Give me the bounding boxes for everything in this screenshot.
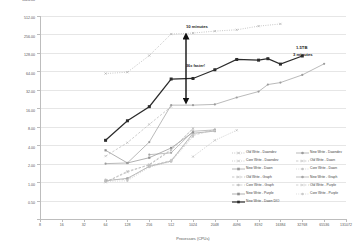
y-axis-tick-label: 0.50 xyxy=(28,201,35,205)
x-axis-tick-label: 128 xyxy=(124,223,130,227)
y-axis-tick-label: 32.00 xyxy=(26,90,35,94)
x-axis-tick xyxy=(127,219,128,222)
legend-item[interactable]: Old Write - Dawndev xyxy=(231,149,295,157)
annotation-size: 1.5TB xyxy=(296,45,307,50)
legend-item[interactable]: New Write - Dawndev xyxy=(295,149,359,157)
legend-column-right: New Write - DawndevOld Write - DawnCore … xyxy=(295,149,359,198)
legend-swatch xyxy=(295,149,310,157)
y-axis-tick xyxy=(37,164,40,165)
gridline xyxy=(40,34,346,35)
gridline xyxy=(40,127,346,128)
x-axis-tick-label: 8 xyxy=(39,223,41,227)
y-axis-tick xyxy=(37,16,40,17)
legend-label: New Write - Dawndev xyxy=(310,151,342,155)
legend-swatch xyxy=(231,157,246,165)
y-axis-tick xyxy=(37,127,40,128)
legend-swatch xyxy=(231,181,246,189)
legend-item[interactable]: Core Write - Purple xyxy=(295,189,359,197)
x-axis-tick-label: 2048 xyxy=(211,223,219,227)
y-axis-tick-label: 1.00 xyxy=(28,183,35,187)
x-axis-tick xyxy=(149,219,150,222)
y-axis-line xyxy=(40,16,41,219)
x-axis-tick-label: 16384 xyxy=(275,223,285,227)
x-axis-tick xyxy=(106,219,107,222)
x-axis-tick-label: 32768 xyxy=(297,223,307,227)
x-axis-tick xyxy=(346,219,347,222)
legend-label: Core Write - Graph xyxy=(246,184,274,188)
legend-item[interactable]: Core Write - Graph xyxy=(231,181,295,189)
legend-item[interactable]: New Write - Graph xyxy=(295,173,359,181)
y-axis-tick-label: 64.00 xyxy=(26,72,35,76)
legend-swatch xyxy=(231,173,246,181)
legend-item[interactable]: New Write - Dawn xyxy=(231,165,295,173)
legend-label: New Write - Dawn xyxy=(246,167,273,171)
x-axis-tick-label: 64 xyxy=(104,223,108,227)
x-axis-tick xyxy=(62,219,63,222)
y-axis-tick xyxy=(37,145,40,146)
legend-label: Core Write - Dawn xyxy=(310,167,337,171)
legend-swatch xyxy=(295,181,310,189)
legend-swatch xyxy=(295,190,310,198)
y-axis-tick xyxy=(37,90,40,91)
x-axis-tick-label: 65536 xyxy=(319,223,329,227)
y-axis-tick-label: 4.00 xyxy=(28,146,35,150)
x-axis-tick xyxy=(40,219,41,222)
y-axis-tick xyxy=(37,108,40,109)
y-axis-tick xyxy=(37,201,40,202)
x-axis-title: Processors (CPUs) xyxy=(176,236,209,241)
legend-item[interactable]: New Write - Purple xyxy=(231,189,295,197)
annotation-speedup: 36x faster! xyxy=(186,64,205,68)
x-axis-tick xyxy=(171,219,172,222)
gridline xyxy=(40,90,346,91)
legend-label: New Write - Graph xyxy=(310,176,337,180)
legend-item[interactable]: Core Write - Dawn xyxy=(295,165,359,173)
x-axis-tick xyxy=(324,219,325,222)
legend-label: Core Write - Purple xyxy=(310,192,338,196)
legend-swatch xyxy=(295,157,310,165)
x-axis-tick xyxy=(259,219,260,222)
legend-item[interactable]: Core Write - Dawndev xyxy=(231,157,295,165)
annotation-three-minutes: 3 minutes xyxy=(293,52,313,57)
legend-label: Core Write - Dawndev xyxy=(246,159,278,163)
x-axis-tick xyxy=(84,219,85,222)
gridline xyxy=(40,108,346,109)
x-axis-tick-label: 8192 xyxy=(255,223,263,227)
legend-item[interactable]: Old Write - Dawn xyxy=(295,157,359,165)
x-axis-tick xyxy=(237,219,238,222)
y-axis-tick xyxy=(37,71,40,72)
x-axis-tick-label: 1024 xyxy=(189,223,197,227)
legend-column-left: Old Write - DawndevCore Write - DawndevN… xyxy=(231,149,295,206)
x-axis-tick-label: 131072 xyxy=(340,223,352,227)
legend-label: New Write - Dawn DIO xyxy=(246,200,279,204)
y-axis-tick-label: 8.00 xyxy=(28,127,35,131)
legend-item[interactable]: Old Write - Graph xyxy=(231,173,295,181)
legend-label: Old Write - Dawn xyxy=(310,159,335,163)
legend-label: Old Write - Dawndev xyxy=(246,151,276,155)
gridline xyxy=(40,71,346,72)
y-axis-tick-label: 2.00 xyxy=(28,164,35,168)
legend-swatch xyxy=(231,165,246,173)
y-axis-tick-label: 128.00 xyxy=(24,53,35,57)
legend-swatch xyxy=(231,190,246,198)
annotation-ten-minutes: 10 minutes xyxy=(186,24,208,29)
x-axis-tick-label: 32 xyxy=(82,223,86,227)
y-axis-tick-label: 512.00 xyxy=(24,16,35,20)
y-axis-tick-labels: 0.501.002.004.008.0016.0032.0064.00128.0… xyxy=(0,0,35,203)
legend-swatch xyxy=(231,149,246,157)
legend-item[interactable]: Old Write - Purple xyxy=(295,181,359,189)
y-axis-tick xyxy=(37,182,40,183)
x-axis-tick xyxy=(193,219,194,222)
legend-swatch xyxy=(295,173,310,181)
legend-item[interactable]: New Write - Dawn DIO xyxy=(231,198,295,206)
x-axis-tick-label: 4096 xyxy=(233,223,241,227)
legend: Old Write - DawndevCore Write - DawndevN… xyxy=(231,149,359,215)
gridline xyxy=(40,145,346,146)
chart-container: 0.501.002.004.008.0016.0032.0064.00128.0… xyxy=(0,0,360,246)
y-axis-tick xyxy=(37,53,40,54)
x-axis-tick xyxy=(302,219,303,222)
legend-swatch xyxy=(231,198,246,206)
legend-label: Old Write - Graph xyxy=(246,176,272,180)
x-axis-tick xyxy=(280,219,281,222)
x-axis-tick-label: 256 xyxy=(146,223,152,227)
x-axis-tick-label: 512 xyxy=(168,223,174,227)
